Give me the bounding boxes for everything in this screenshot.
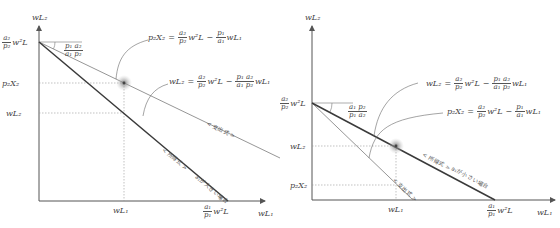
- left-angle-arc: [54, 42, 56, 49]
- left-y-axis-label: wL₂: [32, 14, 47, 22]
- right-income-equation: wL₂= a₂p₂ w²L− p₁ a₂a₁ p₂ wL₁: [426, 76, 527, 92]
- left-leader-expenditure: [116, 40, 148, 79]
- right-expenditure-equation: p₂X₂= a₂p₂ w²L− p₁a₁ wL₁: [447, 104, 541, 120]
- left-tick-wl1: wL₁: [113, 207, 128, 215]
- left-expenditure-line: [39, 42, 280, 158]
- left-slope-label: p₁ a₂a₁ p₂: [64, 43, 83, 59]
- right-x-intercept-label: a₁p₁ w²L: [487, 203, 513, 219]
- right-angle-arc: [330, 103, 332, 112]
- left-equilibrium-dot: [123, 82, 126, 85]
- right-y-intercept-label: a₂p₂ w²L: [280, 96, 306, 112]
- right-x-axis-label: wL₁: [537, 209, 552, 217]
- right-equilibrium-dot: [395, 145, 398, 148]
- left-x-intercept-label: a₁p₁ w²L: [203, 204, 229, 220]
- right-leader-expenditure: [369, 113, 443, 158]
- right-leader-income: [374, 83, 418, 136]
- left-income-equation: wL₂= a₂p₂ w²L− p₁ a₂a₁ p₂ wL₁: [169, 74, 270, 90]
- right-tick-wl2: wL₂: [290, 143, 305, 151]
- left-x-axis-label: wL₁: [258, 210, 273, 218]
- right-slope-label: a₁ p₂p₁ a₂: [348, 104, 367, 120]
- left-tick-p2x2: p₂X₂: [2, 80, 19, 88]
- right-tick-p2x2: p₂X₂: [290, 182, 307, 190]
- right-tick-wl1: wL₁: [388, 206, 403, 214]
- left-tick-wl2: wL₂: [6, 110, 21, 118]
- right-y-axis-label: wL₂: [305, 14, 320, 22]
- left-expenditure-equation: p₂X₂= a₂p₂ w²L− p₁a₁ wL₁: [148, 30, 242, 46]
- left-y-intercept-label: a₂p₂ w²L: [2, 35, 28, 51]
- left-leader-income: [143, 84, 168, 116]
